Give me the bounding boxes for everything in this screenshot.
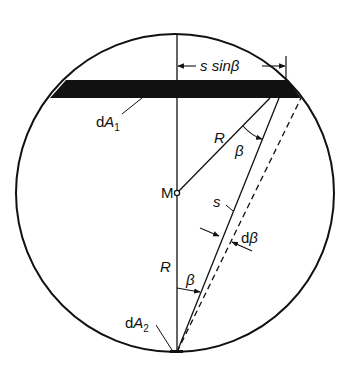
- center-point-M: [174, 190, 179, 195]
- label-s-sin-beta: s sinβ: [200, 57, 240, 74]
- dbeta-arrow-left: [200, 228, 219, 236]
- s-leader: [226, 205, 233, 211]
- sphere-diagram: s sinβ dA1 R β M s dβ R β dA2: [0, 0, 348, 372]
- label-dbeta: dβ: [241, 229, 258, 246]
- element-dA2: [170, 350, 183, 353]
- ray-dashed: [177, 98, 301, 352]
- dA1-leader: [122, 98, 142, 114]
- beta-arc-upper: [243, 126, 262, 139]
- label-M: M: [161, 184, 174, 201]
- label-R-upper: R: [214, 129, 225, 146]
- label-beta-upper: β: [234, 142, 244, 159]
- ray-s: [177, 98, 279, 352]
- label-R-lower: R: [160, 258, 171, 275]
- dA2-leader: [156, 325, 172, 350]
- label-s: s: [213, 193, 221, 210]
- label-dA1: dA1: [96, 113, 120, 133]
- band-dA1: [50, 80, 301, 98]
- label-beta-lower: β: [185, 271, 195, 288]
- label-dA2: dA2: [125, 314, 149, 334]
- beta-arc-lower: [177, 288, 200, 292]
